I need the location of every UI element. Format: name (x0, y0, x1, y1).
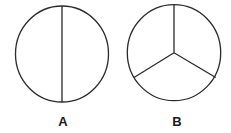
figure-b: B (127, 5, 220, 129)
diagram-canvas: A B (0, 0, 231, 133)
figure-a: A (16, 6, 109, 129)
label-a: A (58, 114, 68, 129)
radius-lower-left-b (134, 53, 174, 78)
label-b: B (172, 114, 181, 129)
radius-lower-right-b (174, 53, 216, 78)
